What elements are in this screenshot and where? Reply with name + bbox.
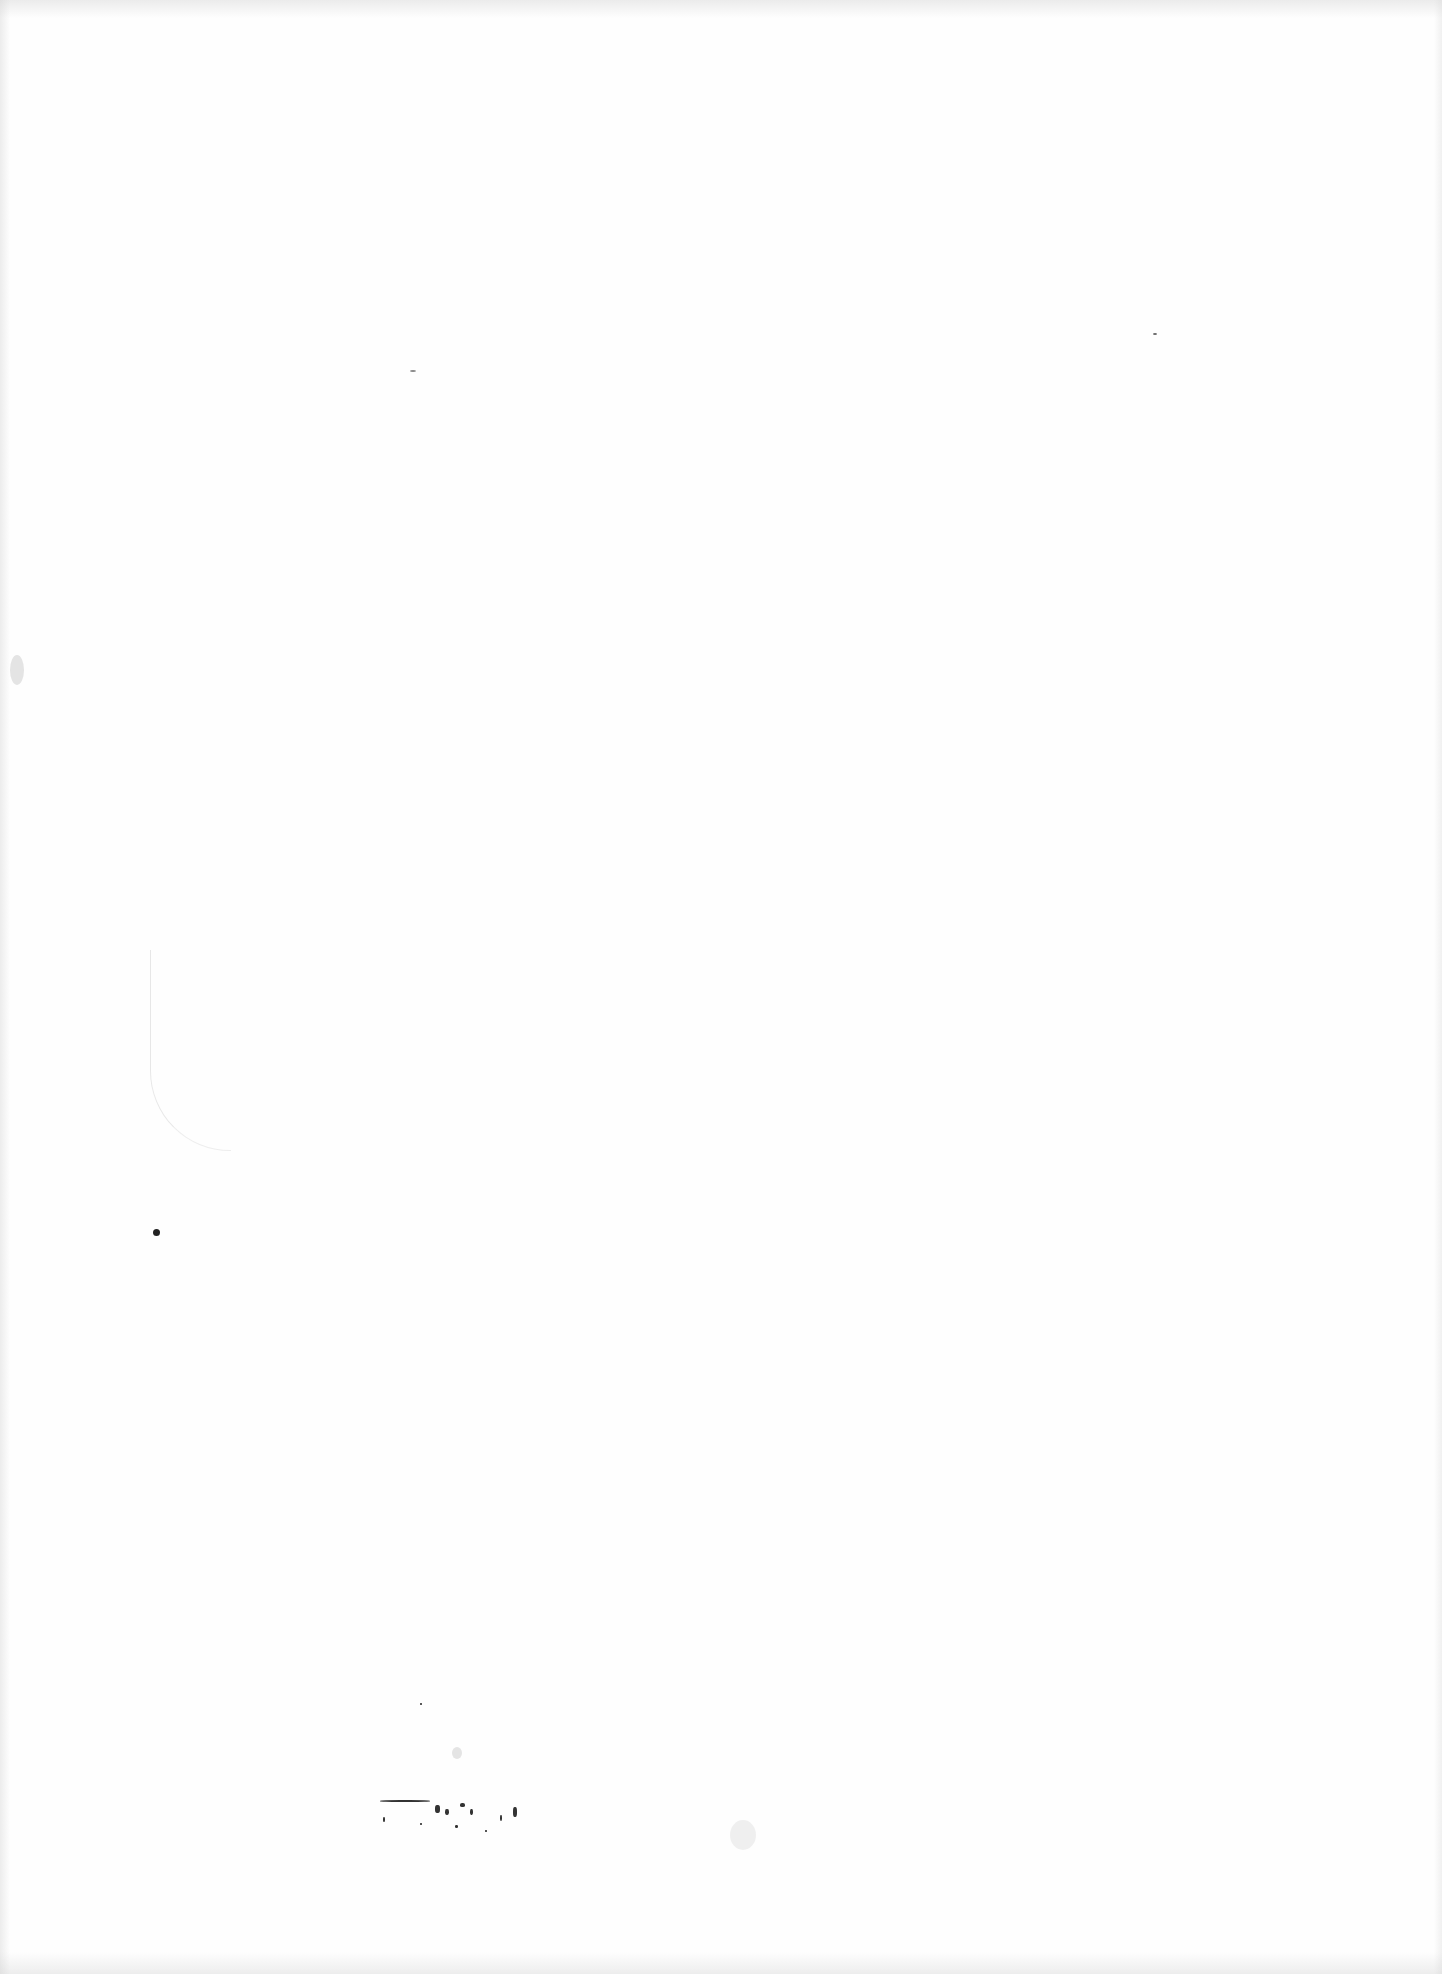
blank-page [0, 0, 1442, 1974]
smudge [730, 1820, 756, 1850]
scan-edge-shadow-bottom [0, 1952, 1442, 1974]
dust-speck [153, 1229, 160, 1236]
dust-speck [420, 1703, 422, 1705]
smudge [10, 655, 24, 685]
scan-edge-shadow-left [0, 0, 10, 1974]
scan-debris-cluster [375, 1795, 535, 1845]
faint-scan-crease [150, 950, 231, 1151]
scan-edge-shadow-top [0, 0, 1442, 18]
scan-edge-shadow-right [1434, 0, 1442, 1974]
smudge [452, 1747, 462, 1759]
dust-speck [1153, 333, 1157, 335]
dust-speck [410, 370, 416, 372]
